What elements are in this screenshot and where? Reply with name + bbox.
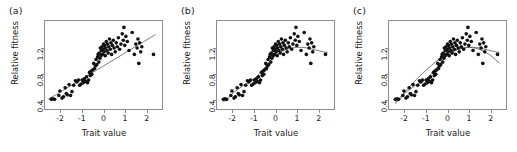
data-point xyxy=(249,78,253,82)
data-point xyxy=(126,40,130,44)
x-tick-label: 0 xyxy=(440,114,456,123)
data-point xyxy=(397,98,401,102)
data-point xyxy=(72,83,76,87)
data-point xyxy=(471,49,475,53)
y-axis-title: Relative fitness xyxy=(10,17,20,89)
data-point xyxy=(77,78,81,82)
chart-panel-a: (a)Relative fitnessTrait value-2-10120.4… xyxy=(0,0,172,152)
panel-label: (a) xyxy=(9,5,23,16)
x-tick-label: 1 xyxy=(117,114,133,123)
data-point xyxy=(108,37,112,41)
data-point xyxy=(124,35,128,39)
data-point xyxy=(308,37,312,41)
data-point xyxy=(464,32,468,36)
plot-area xyxy=(388,20,507,110)
x-tick-mark xyxy=(82,110,83,113)
data-point xyxy=(307,46,311,50)
panel-label: (b) xyxy=(181,5,195,16)
data-point xyxy=(140,45,144,49)
data-point xyxy=(284,46,288,50)
data-point xyxy=(90,73,94,77)
data-point xyxy=(275,54,279,58)
data-point xyxy=(310,41,314,45)
x-tick-mark xyxy=(60,110,61,113)
data-point xyxy=(282,53,286,57)
data-point xyxy=(478,42,482,46)
x-tick-mark xyxy=(125,110,126,113)
data-point xyxy=(123,44,127,48)
data-point xyxy=(447,54,451,58)
data-point xyxy=(454,53,458,57)
data-point xyxy=(311,50,315,54)
data-point xyxy=(136,37,140,41)
data-point xyxy=(413,94,417,98)
chart-panel-c: (c)Relative fitnessTrait value-2-10120.4… xyxy=(344,0,516,152)
x-tick-label: 1 xyxy=(289,114,305,123)
x-tick-mark xyxy=(232,110,233,113)
data-point xyxy=(225,98,229,102)
data-point xyxy=(299,49,303,53)
data-point xyxy=(66,93,70,97)
data-point xyxy=(118,47,122,51)
x-tick-label: -2 xyxy=(396,114,412,123)
data-point xyxy=(69,94,73,98)
data-point xyxy=(309,62,313,66)
x-tick-label: -1 xyxy=(74,114,90,123)
data-point xyxy=(467,44,471,48)
data-point xyxy=(239,83,243,87)
data-point xyxy=(324,53,328,57)
data-point xyxy=(416,83,420,87)
figure-three-panel-selection-plots: (a)Relative fitnessTrait value-2-10120.4… xyxy=(0,0,517,152)
data-point xyxy=(137,62,141,66)
data-point xyxy=(63,86,67,90)
data-point xyxy=(292,32,296,36)
data-point xyxy=(121,38,125,42)
data-point xyxy=(289,36,293,40)
x-tick-label: 2 xyxy=(311,114,327,123)
data-point xyxy=(111,38,115,42)
data-point xyxy=(481,62,485,66)
data-point xyxy=(406,95,410,99)
x-tick-mark xyxy=(404,110,405,113)
chart-panel-b: (b)Relative fitnessTrait value-2-10120.4… xyxy=(172,0,344,152)
data-point xyxy=(463,42,467,46)
data-point xyxy=(295,44,299,48)
x-tick-label: 0 xyxy=(268,114,284,123)
data-point xyxy=(483,50,487,54)
data-point xyxy=(296,35,300,39)
y-axis-title: Relative fitness xyxy=(182,17,192,89)
data-point xyxy=(441,60,445,64)
data-point xyxy=(110,53,114,57)
data-point xyxy=(283,38,287,42)
data-point xyxy=(108,47,112,51)
x-tick-mark xyxy=(426,110,427,113)
plot-area xyxy=(216,20,335,110)
data-point xyxy=(431,78,435,82)
data-point xyxy=(496,53,500,57)
data-point xyxy=(458,41,462,45)
data-point xyxy=(298,40,302,44)
data-point xyxy=(306,42,310,46)
data-point xyxy=(70,90,74,94)
x-tick-mark xyxy=(104,110,105,113)
data-point xyxy=(259,78,263,82)
data-point xyxy=(452,47,456,51)
data-point xyxy=(429,75,433,79)
x-tick-mark xyxy=(448,110,449,113)
data-point xyxy=(293,38,297,42)
data-point xyxy=(117,36,121,40)
data-point xyxy=(461,36,465,40)
x-tick-mark xyxy=(254,110,255,113)
data-point xyxy=(62,95,66,99)
data-point xyxy=(470,40,474,44)
data-point xyxy=(421,78,425,82)
data-point xyxy=(135,46,139,50)
data-point xyxy=(280,37,284,41)
data-point xyxy=(411,83,415,87)
data-point xyxy=(106,51,110,55)
data-point xyxy=(139,50,143,54)
x-axis-title: Trait value xyxy=(44,128,164,138)
data-point xyxy=(112,46,116,50)
y-axis-title: Relative fitness xyxy=(354,17,364,89)
data-point xyxy=(466,26,470,30)
